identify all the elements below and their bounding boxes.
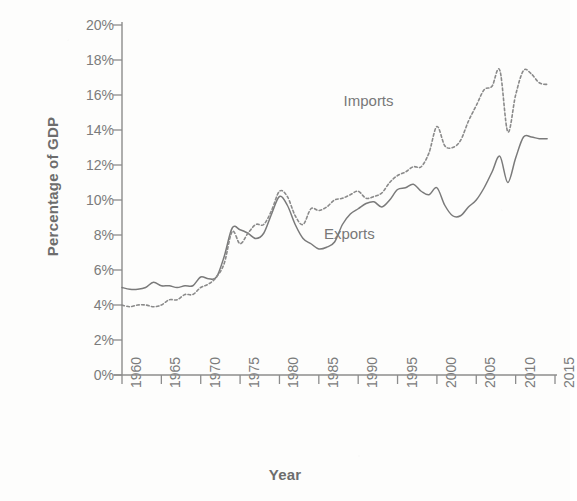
axes: [113, 22, 557, 384]
y-axis-ticks: [113, 25, 122, 375]
series-label-exports: Exports: [324, 225, 375, 242]
series-label-imports: Imports: [344, 92, 394, 109]
series-line-exports: [122, 135, 547, 289]
x-axis-title: Year: [0, 466, 570, 483]
x-axis-ticks: [122, 375, 555, 384]
